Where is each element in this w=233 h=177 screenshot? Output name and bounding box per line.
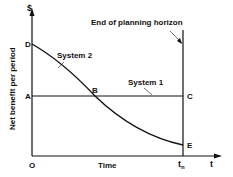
origin-label: O [29,161,35,170]
point-b: B [92,86,98,95]
y-axis-label: Net benefit per period [8,47,17,130]
tn-label: tn [178,159,185,170]
system2-label: System 2 [57,51,93,60]
system2-curve [32,44,183,145]
x-axis-arrow-icon [214,154,222,159]
system1-label: System 1 [128,78,164,87]
point-a: A [25,92,31,101]
point-d: D [25,40,31,49]
point-c: C [187,92,193,101]
x-axis-symbol: t [210,159,213,169]
benefit-diagram: $ Net benefit per period t Time O tn End… [0,0,233,177]
system1-pointer [144,88,152,95]
x-axis-label: Time [98,161,117,170]
horizon-label: End of planning horizon [91,18,183,27]
y-axis-symbol: $ [27,3,32,13]
point-e: E [187,141,193,150]
